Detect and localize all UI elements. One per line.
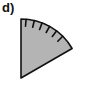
sector-shape <box>21 19 72 78</box>
sector-diagram <box>0 0 93 94</box>
